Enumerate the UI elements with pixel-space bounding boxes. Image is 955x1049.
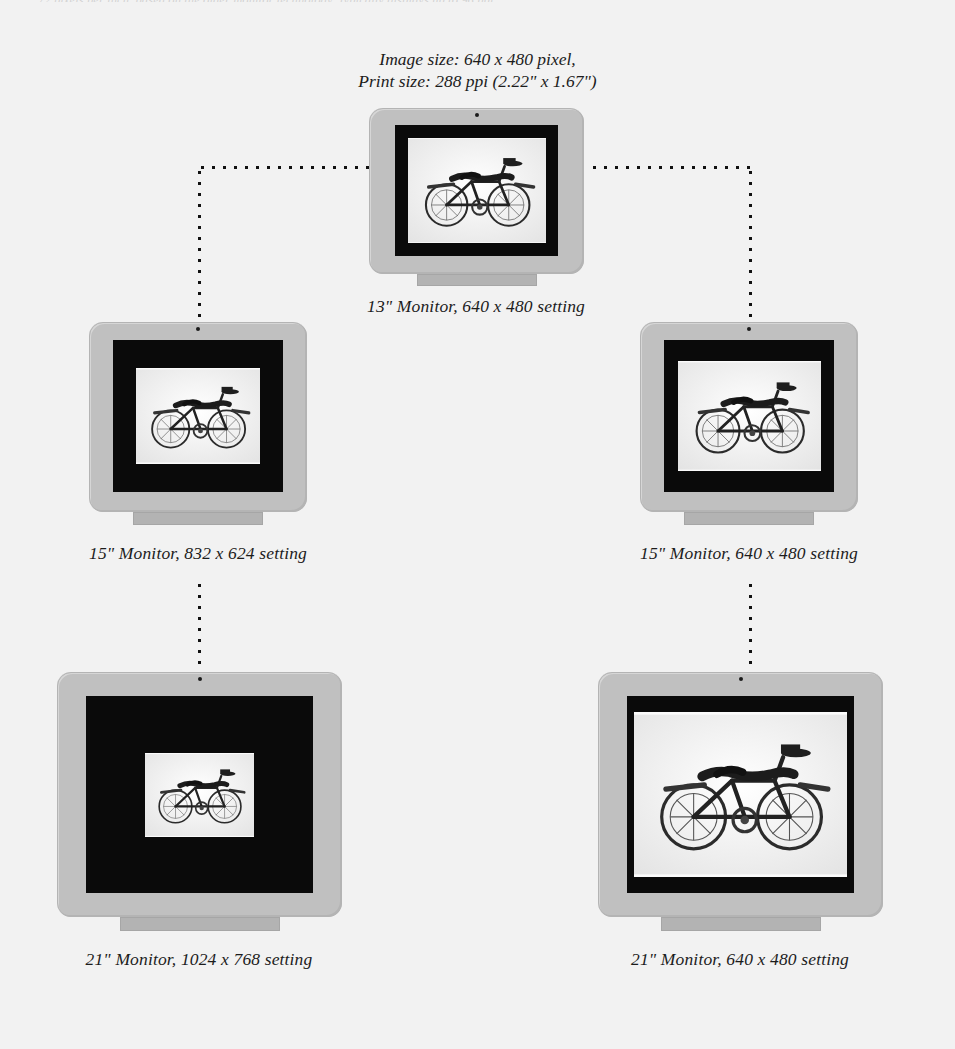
- monitor-21in-1024-caption: 21" Monitor, 1024 x 768 setting: [24, 949, 374, 970]
- bicycle-photo-icon: [408, 138, 546, 243]
- monitor-15in-640-bezel: [640, 322, 858, 512]
- monitor-15in-640-stand: [684, 512, 814, 525]
- monitor-13in-screen: [395, 125, 558, 256]
- monitor-21in-640-photo: [634, 712, 847, 877]
- connector-top-left-horizontal: [197, 165, 381, 170]
- monitor-15in-640[interactable]: [640, 322, 858, 512]
- monitor-15in-832-photo: [136, 368, 260, 464]
- monitor-15in-640-caption: 15" Monitor, 640 x 480 setting: [574, 543, 924, 564]
- monitor-13in-photo: [408, 138, 546, 243]
- bicycle-photo-icon: [634, 712, 847, 877]
- diagram-page: 72 pixels per inch, based on the older m…: [0, 0, 955, 1049]
- monitor-15in-640-photo: [678, 361, 821, 471]
- image-size-caption: Image size: 640 x 480 pixel, Print size:…: [0, 48, 955, 92]
- power-led-icon: [198, 677, 202, 681]
- monitor-21in-1024-photo: [145, 753, 254, 837]
- monitor-21in-1024-bezel: [57, 672, 342, 917]
- power-led-icon: [475, 113, 479, 117]
- power-led-icon: [747, 327, 751, 331]
- bicycle-photo-icon: [678, 361, 821, 471]
- monitor-13in-stand: [417, 274, 537, 286]
- monitor-13in[interactable]: [369, 108, 584, 274]
- power-led-icon: [739, 677, 743, 681]
- monitor-21in-640[interactable]: [598, 672, 883, 917]
- monitor-15in-832[interactable]: [89, 322, 307, 512]
- monitor-15in-832-screen: [113, 340, 283, 492]
- monitor-21in-640-screen: [627, 696, 854, 893]
- monitor-15in-832-caption: 15" Monitor, 832 x 624 setting: [23, 543, 373, 564]
- monitor-13in-bezel: [369, 108, 584, 274]
- monitor-15in-640-screen: [664, 340, 834, 492]
- monitor-21in-640-bezel: [598, 672, 883, 917]
- monitor-15in-832-stand: [133, 512, 263, 525]
- monitor-13in-caption: 13" Monitor, 640 x 480 setting: [301, 296, 651, 317]
- running-head-text: 72 pixels per inch, based on the older m…: [38, 0, 738, 2]
- bicycle-photo-icon: [145, 753, 254, 837]
- monitor-15in-832-bezel: [89, 322, 307, 512]
- print-size-line-2: Print size: 288 ppi (2.22" x 1.67"): [0, 70, 955, 92]
- image-size-line-1: Image size: 640 x 480 pixel,: [0, 48, 955, 70]
- monitor-21in-1024-stand: [120, 917, 280, 931]
- monitor-21in-1024[interactable]: [57, 672, 342, 917]
- power-led-icon: [196, 327, 200, 331]
- bicycle-photo-icon: [136, 368, 260, 464]
- monitor-21in-1024-screen: [86, 696, 313, 893]
- monitor-21in-640-caption: 21" Monitor, 640 x 480 setting: [565, 949, 915, 970]
- connector-right-vertical-upper: [748, 167, 753, 322]
- connector-left-vertical-upper: [197, 167, 202, 322]
- monitor-21in-640-stand: [661, 917, 821, 931]
- connector-right-vertical-lower: [748, 580, 753, 672]
- connector-top-right-horizontal: [589, 165, 751, 170]
- connector-left-vertical-lower: [197, 580, 202, 672]
